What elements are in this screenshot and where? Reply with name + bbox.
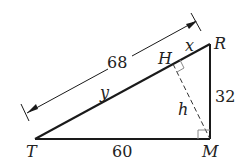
label-y: y: [99, 83, 110, 102]
label-x: x: [185, 36, 194, 55]
label-M: M: [201, 142, 219, 161]
label-60: 60: [112, 142, 132, 161]
label-H: H: [157, 49, 173, 68]
right-angle-marker-M: [198, 130, 210, 139]
label-R: R: [213, 34, 226, 53]
label-32: 32: [215, 87, 235, 106]
label-T: T: [26, 142, 38, 161]
label-68: 68: [107, 53, 127, 72]
label-h: h: [178, 100, 188, 119]
triangle-diagram: 68 H x R y h 32 T 60 M: [0, 0, 247, 167]
